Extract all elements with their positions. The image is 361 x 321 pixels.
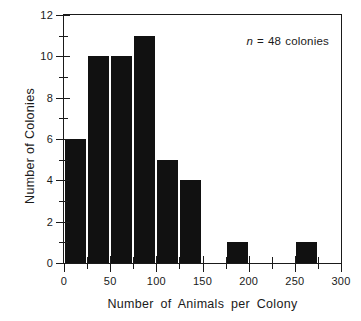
x-tick-major <box>341 263 342 272</box>
histogram-bar <box>157 160 178 263</box>
x-tick-minor <box>179 263 180 269</box>
x-tick-major <box>295 263 296 272</box>
histogram-bar <box>65 139 86 263</box>
sample-size-annotation: n=48colonies <box>246 35 329 47</box>
x-tick-inner <box>179 257 180 263</box>
y-tick-inner <box>64 201 68 202</box>
y-tick-inner <box>64 180 70 181</box>
x-tick-major <box>203 263 204 272</box>
x-tick-minor <box>272 263 273 269</box>
y-tick-inner <box>64 77 68 78</box>
plot-area: 024681012 050100150200250300 n=48colonie… <box>63 14 342 264</box>
annotation-equals: = <box>257 35 264 47</box>
y-tick-major <box>56 263 64 264</box>
y-tick-label: 10 <box>40 50 53 62</box>
histogram-figure: 024681012 050100150200250300 n=48colonie… <box>0 0 361 321</box>
y-tick-inner <box>64 118 68 119</box>
y-tick-label: 12 <box>40 9 53 21</box>
y-axis-title: Number of Colonies <box>23 46 37 246</box>
y-tick-inner <box>64 139 70 140</box>
y-tick-major <box>56 139 64 140</box>
y-tick-label: 0 <box>47 257 53 269</box>
annotation-value: 48 <box>268 35 281 47</box>
histogram-bar <box>296 242 317 263</box>
x-tick-minor <box>133 263 134 269</box>
histogram-bar <box>134 36 155 263</box>
x-tick-major <box>156 263 157 272</box>
y-tick-label: 6 <box>47 133 53 145</box>
y-tick-major <box>56 56 64 57</box>
y-tick-inner <box>64 160 68 161</box>
histogram-bar <box>180 180 201 263</box>
y-tick-label: 8 <box>47 92 53 104</box>
y-tick-label: 2 <box>47 216 53 228</box>
x-tick-inner <box>249 256 250 263</box>
x-tick-label: 200 <box>239 275 258 287</box>
x-tick-major <box>249 263 250 272</box>
x-tick-inner <box>295 256 296 263</box>
x-tick-inner <box>203 256 204 263</box>
x-tick-label: 150 <box>193 275 212 287</box>
x-tick-inner <box>110 256 111 263</box>
y-tick-major <box>56 180 64 181</box>
y-tick-label: 4 <box>47 174 53 186</box>
x-tick-minor <box>318 263 319 269</box>
x-tick-label: 0 <box>61 275 67 287</box>
x-axis-title: Number of Animals per Colony <box>63 297 342 311</box>
y-tick-major <box>56 15 64 16</box>
x-tick-inner <box>318 257 319 263</box>
y-tick-inner <box>64 242 68 243</box>
x-tick-label: 50 <box>104 275 117 287</box>
x-tick-label: 100 <box>147 275 166 287</box>
histogram-bar <box>111 56 132 263</box>
y-tick-major <box>56 98 64 99</box>
x-tick-inner <box>87 257 88 263</box>
x-tick-major <box>64 263 65 272</box>
annotation-unit: colonies <box>285 35 329 47</box>
x-tick-inner <box>156 256 157 263</box>
histogram-bar <box>88 56 109 263</box>
x-tick-label: 250 <box>285 275 304 287</box>
x-tick-minor <box>226 263 227 269</box>
x-tick-inner <box>133 257 134 263</box>
x-tick-label: 300 <box>332 275 351 287</box>
annotation-variable: n <box>246 35 253 47</box>
y-tick-inner <box>64 15 70 16</box>
y-tick-inner <box>64 98 70 99</box>
y-tick-inner <box>64 36 68 37</box>
y-tick-inner <box>64 56 70 57</box>
x-tick-inner <box>272 257 273 263</box>
y-tick-inner <box>64 222 70 223</box>
x-tick-minor <box>87 263 88 269</box>
y-tick-major <box>56 222 64 223</box>
bars-group <box>64 15 341 263</box>
x-tick-inner <box>226 257 227 263</box>
histogram-bar <box>227 242 248 263</box>
x-tick-major <box>110 263 111 272</box>
